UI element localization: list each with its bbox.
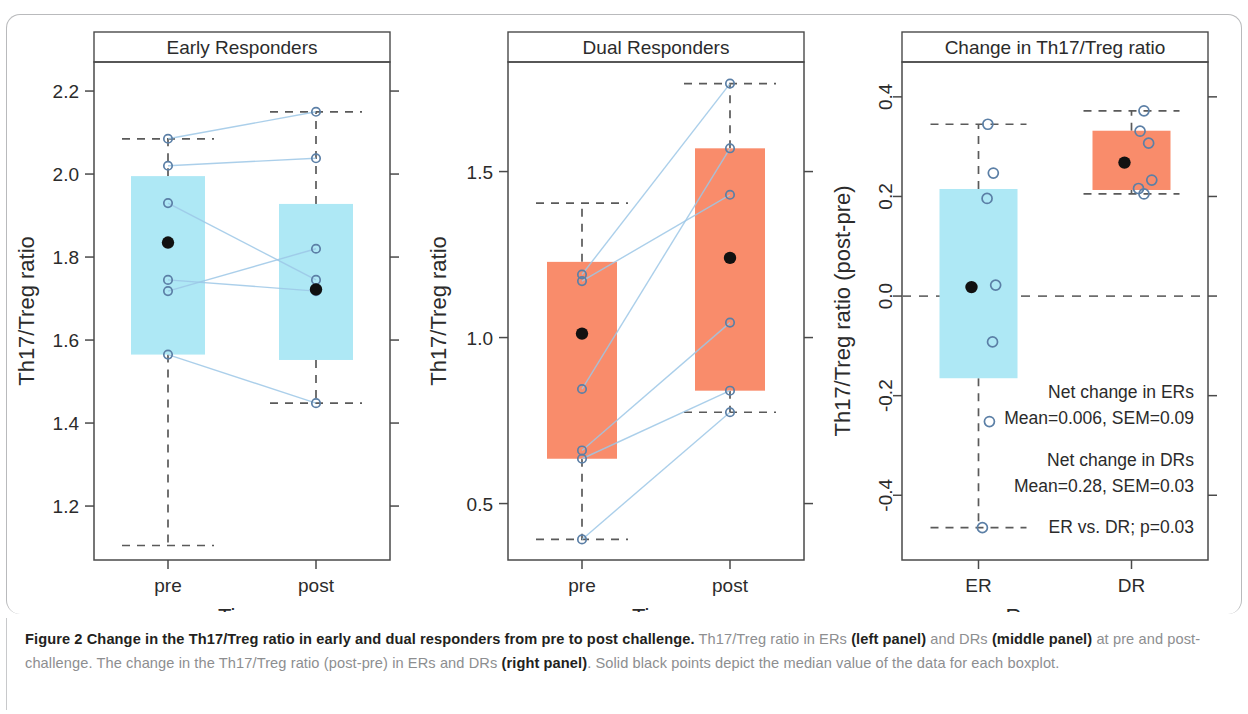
early-responders-ylabel: Th17/Treg ratio [14, 236, 39, 386]
change-in-ratio-annotation: Net change in DRs [1047, 450, 1194, 470]
change-in-ratio-ylabel: Th17/Treg ratio (post-pre) [830, 185, 855, 436]
early-responders-ytick-label: 2.0 [53, 164, 79, 185]
change-in-ratio-ytick-label: 0.4 [875, 83, 896, 110]
dual-responders-ylabel: Th17/Treg ratio [426, 236, 451, 386]
dual-responders-ytick-label: 1.0 [467, 328, 493, 349]
caption-title: Change in the Th17/Treg ratio in early a… [87, 631, 695, 647]
caption-bold-middle-panel: (middle panel) [992, 631, 1092, 647]
change-in-ratio-point-ER [988, 168, 998, 178]
change-in-ratio-ytick-label: 0.0 [875, 283, 896, 309]
dual-responders-xtick-label: post [712, 575, 749, 596]
early-responders-paired-line [168, 112, 316, 139]
change-in-ratio-xlabel: Response [1005, 604, 1104, 612]
dual-responders-median-post [724, 252, 736, 264]
early-responders-median-pre [162, 236, 174, 248]
change-in-ratio-annotation: ER vs. DR; p=0.03 [1049, 517, 1194, 537]
figure-caption: Figure 2 Change in the Th17/Treg ratio i… [6, 618, 1242, 710]
change-in-ratio-box-ER [940, 189, 1018, 378]
dual-responders-xtick-label: pre [568, 575, 595, 596]
change-in-ratio-annotation: Mean=0.28, SEM=0.03 [1014, 476, 1194, 496]
dual-responders-title: Dual Responders [583, 37, 730, 58]
change-in-ratio-xtick-label: ER [965, 575, 991, 596]
early-responders-xtick-label: post [298, 575, 335, 596]
caption-bold-right-panel: (right panel) [502, 655, 588, 671]
early-responders-ytick-label: 1.6 [53, 330, 79, 351]
caption-bold-left-panel: (left panel) [851, 631, 926, 647]
change-in-ratio-annotation: Mean=0.006, SEM=0.09 [1004, 408, 1194, 428]
change-in-ratio-median-ER [965, 281, 977, 293]
change-in-ratio-ytick-label: -0.2 [875, 379, 896, 412]
early-responders-box-post [279, 204, 353, 360]
early-responders-median-post [310, 283, 322, 295]
caption-text-1: Th17/Treg ratio in ERs [695, 631, 852, 647]
change-in-ratio-xtick-label: DR [1118, 575, 1145, 596]
dual-responders-ytick-label: 0.5 [467, 494, 493, 515]
dual-responders-ytick-label: 1.5 [467, 162, 493, 183]
early-responders-xtick-label: pre [154, 575, 181, 596]
dual-responders-xlabel: Time [632, 604, 680, 612]
caption-text-4: . Solid black points depict the median v… [587, 655, 1059, 671]
change-in-ratio-title: Change in Th17/Treg ratio [945, 37, 1166, 58]
change-in-ratio-ytick-label: -0.4 [875, 478, 896, 511]
early-responders-xlabel: Time [218, 604, 266, 612]
early-responders-ytick-label: 1.2 [53, 496, 79, 517]
early-responders-ytick-label: 2.2 [53, 81, 79, 102]
change-in-ratio-box-DR [1093, 131, 1171, 190]
early-responders-ytick-label: 1.4 [53, 413, 80, 434]
early-responders-box-pre [131, 176, 205, 354]
change-in-ratio-ytick-label: 0.2 [875, 183, 896, 209]
chart-early-responders: Early Responders2.22.01.81.61.41.2prepos… [0, 0, 420, 612]
change-in-ratio-annotation: Net change in ERs [1048, 382, 1194, 402]
early-responders-paired-line [168, 355, 316, 404]
figure-plot-area: Early Responders2.22.01.81.61.41.2prepos… [0, 0, 1248, 612]
dual-responders-box-post [695, 148, 765, 390]
change-in-ratio-point-ER [984, 417, 994, 427]
caption-text-2: and DRs [926, 631, 992, 647]
caption-figure-label: Figure 2 [25, 631, 83, 647]
change-in-ratio-median-DR [1118, 156, 1130, 168]
early-responders-title: Early Responders [166, 37, 317, 58]
chart-dual-responders: Dual Responders1.51.00.5prepostTimeTh17/… [414, 0, 834, 612]
early-responders-paired-line [168, 158, 316, 165]
dual-responders-median-pre [576, 327, 588, 339]
early-responders-ytick-label: 1.8 [53, 247, 79, 268]
chart-change-in-ratio: Change in Th17/Treg ratio0.40.20.0-0.2-0… [828, 0, 1248, 612]
